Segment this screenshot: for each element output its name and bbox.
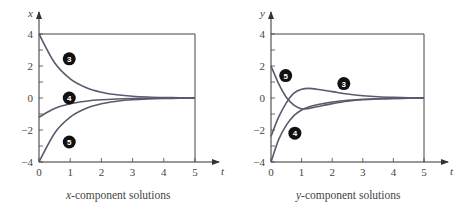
y-tick-label: 0: [28, 92, 34, 104]
y-tick-label: 4: [260, 28, 266, 40]
x-tick-label: 0: [36, 166, 42, 178]
x-tick-label: 5: [192, 166, 198, 178]
y-tick-label: 2: [260, 60, 266, 72]
svg-text:3: 3: [67, 55, 72, 64]
x-axis-label: t: [221, 165, 225, 177]
svg-text:5: 5: [67, 138, 72, 147]
svg-text:5: 5: [283, 72, 288, 81]
x-component-plot: xt−4−2024012345345: [21, 7, 225, 178]
caption-text: -component solutions: [301, 189, 400, 201]
x-plot-caption: x-component solutions: [66, 189, 170, 201]
curve-label-badge-3: 3: [63, 52, 76, 65]
x-tick-label: 2: [329, 166, 335, 178]
curve-label-badge-3: 3: [337, 77, 350, 90]
caption-text: -component solutions: [71, 189, 170, 201]
x-tick-label: 2: [99, 166, 105, 178]
curve-label-badge-4: 4: [63, 92, 76, 105]
y-component-plot: yt−4−2024012345534: [253, 7, 454, 178]
y-tick-label: −4: [253, 156, 265, 168]
y-tick-label: 2: [28, 60, 34, 72]
x-tick-label: 4: [391, 166, 397, 178]
x-tick-label: 1: [67, 166, 73, 178]
x-tick-label: 3: [130, 166, 136, 178]
x-tick-label: 1: [299, 166, 305, 178]
svg-text:4: 4: [293, 129, 298, 138]
solution-charts: xt−4−2024012345345 yt−4−2024012345534: [0, 0, 466, 211]
solution-curve-3: [39, 34, 195, 98]
curve-label-badge-5: 5: [279, 69, 292, 82]
y-axis-label: y: [259, 7, 265, 19]
x-tick-label: 4: [161, 166, 167, 178]
x-axis-label: t: [450, 165, 454, 177]
svg-text:4: 4: [67, 94, 72, 103]
y-plot-caption: y-component solutions: [296, 189, 400, 201]
x-tick-label: 5: [421, 166, 427, 178]
y-tick-label: 4: [28, 28, 34, 40]
curve-label-badge-5: 5: [63, 136, 76, 149]
x-tick-label: 3: [360, 166, 366, 178]
solution-curve-5: [39, 98, 195, 162]
svg-text:3: 3: [342, 80, 347, 89]
y-axis-label: x: [27, 7, 33, 19]
y-tick-label: −4: [21, 156, 33, 168]
y-tick-label: 0: [260, 92, 266, 104]
y-tick-label: −2: [21, 124, 33, 136]
y-tick-label: −2: [253, 124, 265, 136]
x-tick-label: 0: [268, 166, 274, 178]
curve-label-badge-4: 4: [288, 127, 301, 140]
